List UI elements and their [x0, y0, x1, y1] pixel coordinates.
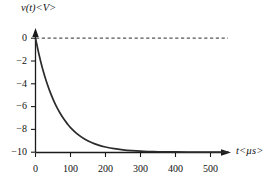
x-tick-label-1: 100	[56, 163, 86, 174]
x-tick-label-3: 300	[126, 163, 156, 174]
x-tick-label-2: 200	[91, 163, 121, 174]
y-tick-label-2: −4	[1, 78, 27, 89]
y-axis-arrowhead-icon	[32, 28, 38, 37]
decay-curve	[36, 38, 229, 152]
y-tick-label-5: −10	[1, 146, 27, 157]
x-axis-ticks	[36, 153, 211, 158]
x-tick-label-0: 0	[21, 163, 51, 174]
y-axis-label: v(t)<V>	[21, 2, 56, 13]
y-tick-label-1: −2	[1, 55, 27, 66]
y-axis-ticks	[31, 38, 36, 152]
x-axis-label: t<µs>	[236, 145, 263, 156]
y-tick-label-3: −6	[1, 100, 27, 111]
y-tick-label-4: −8	[1, 123, 27, 134]
x-tick-label-4: 400	[161, 163, 191, 174]
y-tick-label-0: 0	[1, 32, 27, 43]
x-tick-label-5: 500	[196, 163, 226, 174]
figure-container: v(t)<V> t<µs> 0 −2 −4 −6 −8 −10 0 100 20…	[0, 0, 278, 191]
